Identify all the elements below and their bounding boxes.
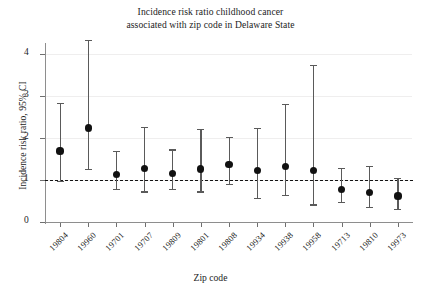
x-axis-label: 19934 [244,230,267,253]
whisker-cap-lower [57,181,64,182]
x-axis-label: 19804 [47,230,70,253]
estimate-marker [141,165,148,172]
estimate-marker [366,189,373,196]
whisker-cap-upper [366,166,373,167]
estimate-marker [225,161,232,168]
whisker-cap-upper [394,178,401,179]
x-axis-label: 19960 [75,230,98,253]
estimate-marker [282,163,289,170]
estimate-marker [254,167,261,174]
gridline [46,54,412,55]
x-axis-line [45,222,413,223]
whisker-cap-upper [310,65,317,66]
x-axis-label: 19801 [188,230,211,253]
confidence-interval-whisker [285,104,286,195]
chart-figure: Incidence risk ratio childhood cancer as… [0,0,421,292]
whisker-cap-lower [226,184,233,185]
whisker-cap-lower [141,191,148,192]
whisker-cap-lower [254,198,261,199]
chart-title: Incidence risk ratio childhood cancer as… [0,6,421,31]
chart-title-line-2: associated with zip code in Delaware Sta… [0,19,421,32]
confidence-interval-whisker [313,65,314,205]
confidence-interval-whisker [257,128,258,198]
x-axis-title: Zip code [0,272,421,283]
x-axis-label: 19973 [385,230,408,253]
whisker-cap-upper [254,128,261,129]
whisker-cap-lower [310,204,317,205]
confidence-interval-whisker [200,129,201,192]
whisker-cap-lower [169,189,176,190]
whisker-cap-upper [282,104,289,105]
estimate-marker [56,147,63,154]
whisker-cap-lower [85,169,92,170]
x-axis-label: 19713 [329,230,352,253]
estimate-marker [310,167,317,174]
confidence-interval-whisker [60,103,61,181]
whisker-cap-lower [113,189,120,190]
estimate-marker [197,165,204,172]
whisker-cap-upper [338,168,345,169]
confidence-interval-whisker [369,166,370,207]
whisker-cap-lower [394,209,401,210]
chart-title-line-1: Incidence risk ratio childhood cancer [0,6,421,19]
whisker-cap-lower [338,202,345,203]
whisker-cap-lower [282,195,289,196]
whisker-cap-upper [141,127,148,128]
confidence-interval-whisker [144,127,145,192]
x-axis-label: 19938 [272,230,295,253]
confidence-interval-whisker [88,40,89,169]
estimate-marker [338,186,345,193]
estimate-marker [85,124,92,131]
y-axis-title: Incidence risk ratio, 95% CI [17,56,28,216]
x-axis-label: 19707 [132,230,155,253]
estimate-marker [169,170,176,177]
x-axis-label: 19808 [216,230,239,253]
confidence-interval-whisker [341,168,342,202]
whisker-cap-lower [366,207,373,208]
whisker-cap-upper [226,137,233,138]
x-axis-label: 19809 [160,230,183,253]
whisker-cap-upper [57,103,64,104]
whisker-cap-upper [169,149,176,150]
whisker-cap-upper [85,40,92,41]
estimate-marker [113,171,120,178]
x-axis-label: 19701 [104,230,127,253]
whisker-cap-upper [197,129,204,130]
whisker-cap-upper [113,151,120,152]
whisker-cap-lower [197,191,204,192]
x-axis-label: 19810 [357,230,380,253]
y-axis-line [45,43,46,224]
estimate-marker [394,192,401,199]
gridline [46,96,412,97]
x-axis-label: 19958 [301,230,324,253]
